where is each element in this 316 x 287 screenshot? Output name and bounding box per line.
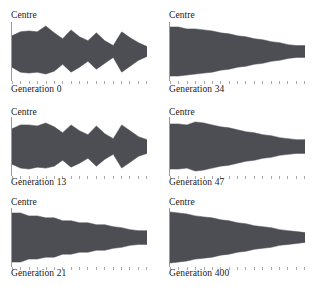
x-axis-tick — [237, 176, 238, 179]
axis-label-centre: Centre — [11, 10, 37, 21]
x-axis-tick — [245, 81, 246, 84]
x-axis-tick — [96, 267, 97, 270]
x-axis-tick — [71, 81, 72, 84]
panel-generation-47: Centre Generation 47 — [158, 97, 316, 189]
x-axis-tick — [237, 267, 238, 270]
x-axis-tick — [245, 267, 246, 270]
x-axis-tick — [262, 176, 263, 179]
x-axis-tick — [113, 267, 114, 270]
x-axis-tick — [254, 81, 255, 84]
plot-area — [169, 119, 305, 174]
x-axis-tick — [287, 81, 288, 84]
x-axis-tick — [87, 267, 88, 270]
caption-generation-21: Generation 21 — [11, 268, 66, 279]
x-axis-tick — [262, 267, 263, 270]
axis-label-centre: Centre — [11, 197, 37, 208]
caption-generation-13: Generation 13 — [11, 177, 66, 188]
profile-area — [170, 212, 305, 263]
axis-label-centre: Centre — [169, 10, 195, 21]
x-axis-tick — [262, 81, 263, 84]
x-axis-tick — [87, 176, 88, 179]
x-axis-tick — [79, 267, 80, 270]
x-axis-tick — [296, 176, 297, 179]
x-axis-tick — [138, 267, 139, 270]
plot-area — [169, 210, 305, 265]
plot-area — [11, 210, 147, 265]
profile-area — [12, 26, 147, 74]
x-axis-tick — [254, 267, 255, 270]
x-axis-tick — [71, 267, 72, 270]
x-axis-tick — [146, 267, 147, 270]
x-axis-tick — [104, 267, 105, 270]
x-axis-tick — [146, 81, 147, 84]
x-axis-tick — [279, 267, 280, 270]
x-axis-tick — [121, 176, 122, 179]
x-axis-tick — [96, 81, 97, 84]
x-axis-tick — [304, 267, 305, 270]
x-axis-tick — [296, 267, 297, 270]
profile-area — [12, 213, 147, 262]
panel-generation-13: Centre Generation 13 — [0, 97, 158, 189]
profile-shape-3 — [170, 119, 305, 174]
x-axis-tick — [62, 81, 63, 84]
x-axis-tick — [287, 267, 288, 270]
panel-generation-400: Centre Generation 400 — [158, 189, 316, 287]
plot-area — [11, 119, 147, 174]
x-axis-tick — [287, 176, 288, 179]
caption-generation-0: Generation 0 — [11, 84, 62, 95]
x-axis-tick — [237, 81, 238, 84]
plot-area — [11, 24, 147, 79]
profile-shape-4 — [12, 210, 147, 265]
x-axis-tick — [296, 81, 297, 84]
x-axis-tick — [279, 81, 280, 84]
x-axis-tick — [96, 176, 97, 179]
x-axis-tick — [229, 176, 230, 179]
panel-generation-21: Centre Generation 21 — [0, 189, 158, 287]
profile-area — [12, 123, 147, 169]
profile-area — [170, 122, 305, 171]
x-axis-tick — [121, 81, 122, 84]
x-axis-tick — [113, 81, 114, 84]
x-axis-tick — [271, 267, 272, 270]
x-axis-tick — [304, 176, 305, 179]
profile-shape-1 — [170, 24, 305, 79]
panel-generation-34: Centre Generation 34 — [158, 0, 316, 97]
caption-generation-400: Generation 400 — [169, 268, 229, 279]
axis-label-centre: Centre — [169, 197, 195, 208]
generation-profile-figure: Centre Generation 0 Centre Generation 34… — [0, 0, 316, 287]
x-axis-tick — [229, 81, 230, 84]
x-axis-tick — [146, 176, 147, 179]
x-axis-tick — [71, 176, 72, 179]
x-axis-tick — [87, 81, 88, 84]
x-axis-tick — [245, 176, 246, 179]
x-axis-tick — [304, 81, 305, 84]
x-axis-tick — [138, 176, 139, 179]
profile-shape-0 — [12, 24, 147, 79]
x-axis-tick — [104, 176, 105, 179]
x-axis-tick — [79, 81, 80, 84]
caption-generation-34: Generation 34 — [169, 84, 224, 95]
x-axis-tick — [271, 81, 272, 84]
x-axis-tick — [79, 176, 80, 179]
profile-shape-2 — [12, 119, 147, 174]
x-axis-tick — [104, 81, 105, 84]
x-axis-tick — [138, 81, 139, 84]
panel-generation-0: Centre Generation 0 — [0, 0, 158, 97]
plot-area — [169, 24, 305, 79]
caption-generation-47: Generation 47 — [169, 177, 224, 188]
x-axis-tick — [129, 176, 130, 179]
x-axis-tick — [129, 81, 130, 84]
profile-area — [170, 27, 305, 76]
axis-label-centre: Centre — [11, 107, 37, 118]
x-axis-tick — [129, 267, 130, 270]
x-axis-tick — [121, 267, 122, 270]
x-axis-tick — [254, 176, 255, 179]
x-axis-tick — [113, 176, 114, 179]
x-axis-tick — [271, 176, 272, 179]
profile-shape-5 — [170, 210, 305, 265]
axis-label-centre: Centre — [169, 107, 195, 118]
x-axis-tick — [279, 176, 280, 179]
